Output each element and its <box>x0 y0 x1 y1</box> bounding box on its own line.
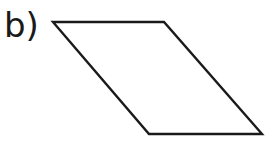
parallelogram-shape <box>53 22 262 134</box>
parallelogram-diagram <box>0 0 276 143</box>
